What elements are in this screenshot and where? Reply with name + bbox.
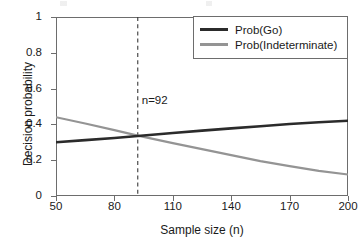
series-line-prob-go: [56, 121, 348, 142]
data-series: [56, 117, 348, 174]
y-axis-tick-label: 0.8: [0, 47, 50, 59]
legend-label: Prob(Go): [235, 24, 282, 36]
legend-swatch-line-icon: [200, 43, 228, 46]
y-axis-tick-label: 1: [0, 11, 50, 23]
x-axis-tick-label: 170: [280, 200, 299, 212]
x-axis-tick-label: 110: [164, 200, 182, 212]
x-axis-title: Sample size (n): [56, 223, 348, 237]
legend-label: Prob(Indeterminate): [235, 39, 337, 51]
y-axis-tick-label: 0.6: [0, 83, 50, 95]
legend-item-prob-indeterminate: Prob(Indeterminate): [200, 37, 347, 52]
x-axis-tick-label: 50: [50, 200, 63, 212]
y-axis-tick-label: 0.2: [0, 154, 50, 166]
series-line-prob-indeterminate: [56, 117, 348, 174]
cropped-caption-artifact: [56, 1, 286, 6]
y-axis-tick-label: 0.4: [0, 118, 50, 130]
x-axis-tick-label: 140: [222, 200, 241, 212]
annotation-label-n92: n=92: [142, 94, 168, 106]
x-axis-tick-labels: 5080110140170200: [0, 200, 361, 218]
x-axis-tick-label: 200: [338, 200, 357, 212]
chart-legend: Prob(Go) Prob(Indeterminate): [193, 16, 348, 59]
legend-item-prob-go: Prob(Go): [200, 22, 347, 37]
legend-swatch-line-icon: [200, 28, 228, 31]
x-axis-tick-label: 80: [108, 200, 121, 212]
chart-figure: Decision probability 00.20.40.60.81 n=92…: [0, 0, 361, 247]
